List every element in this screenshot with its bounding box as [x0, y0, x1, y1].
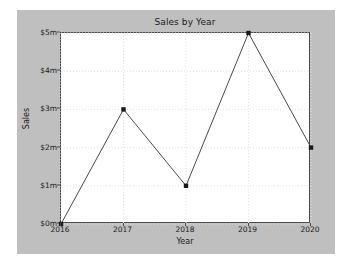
- x-tick-label: 2018: [175, 225, 194, 234]
- x-tick-label: 2019: [238, 225, 257, 234]
- chart-title: Sales by Year: [60, 17, 310, 27]
- x-tick-label: 2017: [113, 225, 132, 234]
- x-tick-mark: [123, 223, 124, 226]
- data-point: [246, 31, 250, 35]
- y-axis-title: Sales: [22, 94, 31, 144]
- y-tick-label: $1m: [17, 180, 57, 189]
- figure-panel: Sales by Year $0m$1m$2m$3m$4m$5m 2016201…: [17, 10, 335, 254]
- x-axis-title: Year: [60, 237, 310, 246]
- x-tick-label: 2020: [300, 225, 319, 234]
- x-axis-tick-labels: 20162017201820192020: [60, 223, 310, 237]
- series-sales-line: [61, 33, 309, 222]
- x-tick-mark: [248, 223, 249, 226]
- plot-area: [60, 32, 310, 223]
- y-tick-label: $5m: [17, 28, 57, 37]
- x-tick-mark: [60, 223, 61, 226]
- data-point: [184, 184, 188, 188]
- x-tick-mark: [185, 223, 186, 226]
- x-tick-label: 2016: [50, 225, 69, 234]
- data-point: [309, 145, 313, 149]
- y-tick-label: $4m: [17, 66, 57, 75]
- data-point: [121, 107, 125, 111]
- x-tick-mark: [310, 223, 311, 226]
